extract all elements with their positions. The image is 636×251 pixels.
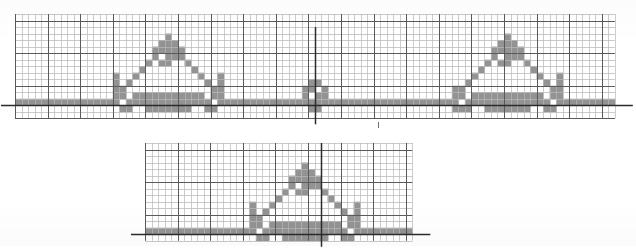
lower-panel	[129, 129, 434, 251]
upper-panel	[0, 0, 636, 132]
stray-tick-mark	[378, 122, 379, 128]
upper-panel-grid	[0, 0, 636, 132]
lower-panel-grid	[129, 129, 434, 251]
